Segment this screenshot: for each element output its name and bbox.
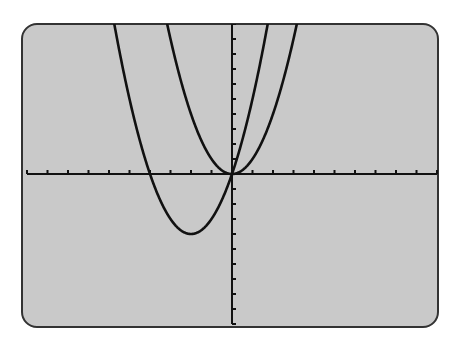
graphing-calculator-screen	[0, 0, 459, 344]
screen-background	[22, 24, 438, 327]
